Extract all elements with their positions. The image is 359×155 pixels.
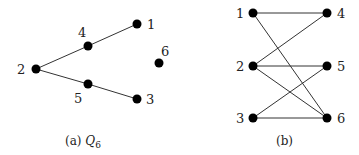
vertex-label: 3 (236, 111, 244, 126)
edge-4-1 (88, 24, 137, 46)
vertex-2 (249, 62, 258, 71)
figure: 123456 123456 (a) Q6 (b) (0, 0, 359, 155)
vertex-1 (249, 9, 258, 18)
graph-q6: 123456 (17, 17, 169, 107)
vertex-3 (249, 114, 258, 123)
vertex-label: 1 (236, 6, 244, 21)
vertex-label: 2 (236, 59, 244, 74)
vertex-5 (84, 80, 93, 89)
vertex-label: 6 (161, 44, 169, 59)
vertex-label: 4 (337, 6, 345, 21)
vertex-6 (155, 59, 164, 68)
graph-b: 123456 (236, 6, 345, 126)
vertex-5 (323, 62, 332, 71)
vertex-2 (32, 65, 41, 74)
vertex-label: 2 (17, 62, 25, 77)
vertex-1 (133, 20, 142, 29)
vertex-4 (84, 42, 93, 51)
vertex-3 (133, 95, 142, 104)
vertex-label: 3 (146, 92, 154, 107)
vertex-label: 4 (78, 25, 86, 40)
vertex-label: 1 (147, 17, 155, 32)
vertex-label: 5 (337, 59, 345, 74)
graph-figures: 123456 123456 (a) Q6 (b) (0, 0, 359, 155)
edge-2-5 (36, 69, 88, 84)
vertex-label: 5 (74, 91, 82, 106)
caption-b: (b) (276, 134, 293, 148)
edge-2-4 (253, 13, 327, 66)
vertex-4 (323, 9, 332, 18)
edge-5-3 (88, 84, 137, 99)
vertex-6 (323, 114, 332, 123)
vertex-label: 6 (337, 111, 345, 126)
caption-a: (a) Q6 (65, 134, 101, 150)
edge-2-4 (36, 46, 88, 69)
